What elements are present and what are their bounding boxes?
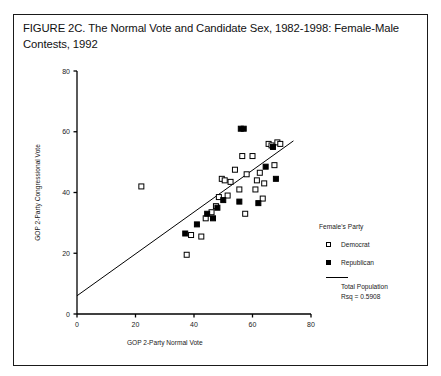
legend-title: Female's Party <box>319 223 423 230</box>
y-tick-label: 0 <box>66 311 70 318</box>
y-axis-title: GOP 2-Party Congressional Vote <box>34 144 42 241</box>
data-point-democrat <box>240 154 245 159</box>
data-point-democrat <box>237 187 242 192</box>
data-point-democrat <box>222 178 227 183</box>
y-tick-label: 80 <box>62 68 70 75</box>
data-point-democrat <box>272 163 277 168</box>
legend: Female's Party Democrat Republican Total… <box>319 223 423 301</box>
data-point-democrat <box>139 184 144 189</box>
data-point-republican <box>270 144 275 149</box>
x-tick-label: 0 <box>75 321 79 328</box>
legend-fit-rsq: Rsq = 0.5908 <box>341 292 423 302</box>
legend-item-label: Republican <box>341 259 374 266</box>
legend-item-democrat: Democrat <box>319 241 423 248</box>
data-point-republican <box>256 201 261 206</box>
data-point-democrat <box>244 172 249 177</box>
data-point-republican <box>241 126 246 131</box>
data-point-democrat <box>184 252 189 257</box>
data-point-republican <box>273 176 278 181</box>
data-point-democrat <box>232 167 237 172</box>
x-tick-label: 20 <box>132 321 140 328</box>
data-point-democrat <box>228 179 233 184</box>
y-tick-label: 60 <box>62 128 70 135</box>
fit-line <box>77 141 293 296</box>
figure-container: FIGURE 2C. The Normal Vote and Candidate… <box>13 14 428 366</box>
x-tick-label: 40 <box>190 321 198 328</box>
data-point-democrat <box>243 211 248 216</box>
y-tick-label: 40 <box>62 189 70 196</box>
data-point-democrat <box>278 141 283 146</box>
data-point-democrat <box>257 170 262 175</box>
data-point-republican <box>211 216 216 221</box>
open-square-icon <box>326 242 331 247</box>
x-tick-label: 80 <box>307 321 315 328</box>
x-tick-label: 60 <box>249 321 257 328</box>
x-axis-title: GOP 2-Party Normal Vote <box>127 339 203 347</box>
legend-item-republican: Republican <box>319 259 423 266</box>
data-point-republican <box>221 198 226 203</box>
data-point-democrat <box>250 154 255 159</box>
fit-line-icon <box>326 277 348 278</box>
data-point-republican <box>263 164 268 169</box>
legend-fit-line-label: Total Population <box>341 282 423 292</box>
data-point-republican <box>237 199 242 204</box>
data-point-democrat <box>199 234 204 239</box>
legend-fit-block: Total Population Rsq = 0.5908 <box>319 282 423 301</box>
scatter-plot: 020406080020406080GOP 2-Party Normal Vot… <box>14 15 429 367</box>
data-point-republican <box>205 211 210 216</box>
data-point-democrat <box>262 181 267 186</box>
filled-square-icon <box>326 260 331 265</box>
data-point-republican <box>215 205 220 210</box>
data-point-democrat <box>254 178 259 183</box>
data-point-democrat <box>253 187 258 192</box>
data-point-republican <box>183 231 188 236</box>
legend-item-label: Democrat <box>341 241 370 248</box>
data-point-republican <box>194 222 199 227</box>
y-tick-label: 20 <box>62 250 70 257</box>
data-point-democrat <box>189 233 194 238</box>
